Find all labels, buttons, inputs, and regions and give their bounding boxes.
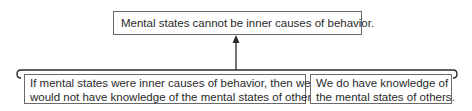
- conclusion-box: Mental states cannot be inner causes of …: [113, 11, 362, 35]
- conclusion-text: Mental states cannot be inner causes of …: [121, 17, 374, 29]
- premise-1-line-1: If mental states were inner causes of be…: [30, 76, 305, 90]
- premise-box-2: We do have knowledge of the mental state…: [310, 74, 452, 104]
- premise-2-line-2: the mental states of others.: [316, 90, 451, 104]
- premise-2-line-1: We do have knowledge of: [316, 76, 451, 90]
- premise-box-1: If mental states were inner causes of be…: [24, 74, 306, 104]
- premise-1-line-2: would not have knowledge of the mental s…: [30, 90, 305, 104]
- arrow-head-icon: [233, 35, 240, 43]
